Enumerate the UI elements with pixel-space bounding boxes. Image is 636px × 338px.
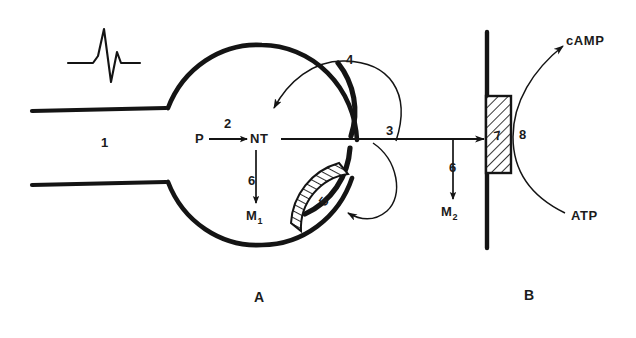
label-step-6-cleft: 6 — [449, 160, 456, 175]
action-potential-icon — [68, 29, 140, 82]
curved-feedback-arrow — [348, 143, 397, 219]
label-step-3: 3 — [386, 123, 393, 138]
label-neurotransmitter: NT — [250, 131, 269, 146]
label-step-8: 8 — [519, 127, 526, 142]
metabolite-1-subscript: 1 — [257, 216, 263, 226]
panel-label-b: B — [524, 287, 534, 303]
label-step-2: 2 — [224, 116, 231, 131]
metabolite-2-base: M — [441, 204, 452, 219]
label-step-1: 1 — [101, 135, 108, 150]
label-metabolite-2: M2 — [441, 204, 458, 222]
metabolite-2-subscript: 2 — [452, 212, 458, 222]
label-step-6-presynaptic: 6 — [248, 173, 255, 188]
synapse-diagram: 1 P 2 NT 6 M1 5 4 3 6 M2 7 8 cAMP ATP A … — [0, 0, 636, 338]
label-metabolite-1: M1 — [246, 208, 263, 226]
label-camp: cAMP — [566, 33, 605, 48]
metabolite-1-base: M — [246, 208, 257, 223]
panel-label-a: A — [254, 289, 264, 305]
label-atp: ATP — [571, 208, 598, 223]
curved-reuptake-arrow — [274, 61, 401, 141]
diagram-canvas — [0, 0, 636, 338]
label-step-4: 4 — [346, 52, 353, 67]
axon-shaft — [32, 108, 166, 185]
label-precursor: P — [195, 131, 204, 146]
